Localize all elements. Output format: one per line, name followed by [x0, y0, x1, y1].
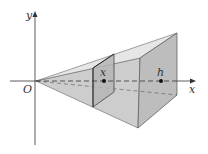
origin-label: O: [23, 83, 32, 96]
y-axis-label: y: [25, 9, 33, 22]
x-axis-label: x: [189, 83, 196, 96]
height-label: h: [157, 66, 164, 79]
cross-section-label: x: [100, 66, 107, 79]
point-h: [159, 79, 163, 83]
point-x: [102, 79, 106, 83]
y-axis-arrow-icon: [33, 11, 38, 17]
pyramid-diagram: y x O x h: [0, 0, 208, 154]
